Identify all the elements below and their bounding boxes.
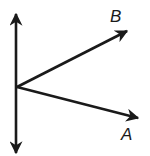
label-a: A [120, 125, 132, 144]
angle-diagram: B A [0, 0, 150, 156]
ray-a [17, 87, 138, 118]
label-b: B [110, 7, 121, 26]
ray-b [17, 31, 127, 87]
